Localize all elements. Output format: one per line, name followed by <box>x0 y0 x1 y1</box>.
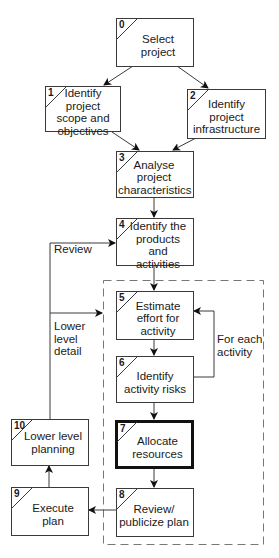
step-number: 0 <box>119 19 125 30</box>
step-number: 6 <box>119 357 125 368</box>
step-label: Lower level planning <box>23 430 83 455</box>
step-9-execute-plan: 9 Execute plan <box>11 487 89 536</box>
step-1-identify-scope: 1 Identify project scope and objectives <box>45 86 121 132</box>
step-number: 5 <box>119 292 125 303</box>
step-7-allocate-resources: 7 Allocate resources <box>115 420 194 469</box>
step-8-review-publicize: 8 Review/ publicize plan <box>116 488 194 537</box>
step-number: 2 <box>190 90 196 101</box>
step-label: Estimate effort for activity <box>133 300 183 338</box>
step-number: 4 <box>119 219 125 230</box>
step-2-identify-infrastructure: 2 Identify project infrastructure <box>187 89 266 139</box>
step-label: Execute plan <box>29 502 77 527</box>
step-number: 3 <box>119 152 125 163</box>
step-0-select-project: 0 Select project <box>116 18 194 67</box>
step-4-identify-products: 4 Identify the products and activities <box>116 218 194 266</box>
step-6-identify-risks: 6 Identify activity risks <box>116 356 194 403</box>
step-number: 7 <box>120 423 126 434</box>
edge-label-for-each-activity: For each activity <box>217 333 263 358</box>
step-number: 8 <box>119 489 125 500</box>
step-10-lower-level-planning: 10 Lower level planning <box>11 419 89 466</box>
step-5-estimate-effort: 5 Estimate effort for activity <box>116 291 194 340</box>
connector-lines <box>0 0 279 558</box>
edge-label-review: Review <box>54 243 92 256</box>
step-label: Allocate resources <box>130 435 186 460</box>
edge-label-lower-level-detail: Lower level detail <box>54 320 94 358</box>
step-label: Select project <box>136 33 180 58</box>
step-3-analyse-characteristics: 3 Analyse project characteristics <box>116 151 194 198</box>
step-number: 10 <box>14 420 25 431</box>
step-number: 1 <box>48 87 54 98</box>
step-number: 9 <box>14 488 20 499</box>
